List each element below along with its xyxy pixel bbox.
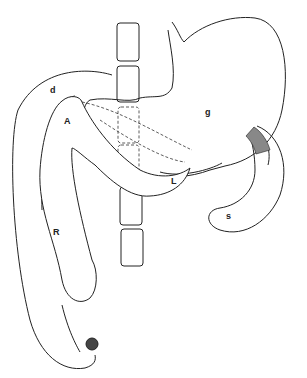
label-L: L [171,176,177,186]
pancreas [40,97,190,302]
label-A: A [64,116,71,126]
spine [117,23,143,266]
label-R: R [53,227,60,237]
label-d: d [50,85,56,95]
spleen [209,126,284,232]
label-s: s [226,211,231,221]
duodenum-lumen [86,338,98,350]
anatomy-diagram: d g A L R s [0,0,307,378]
label-g: g [205,107,211,117]
